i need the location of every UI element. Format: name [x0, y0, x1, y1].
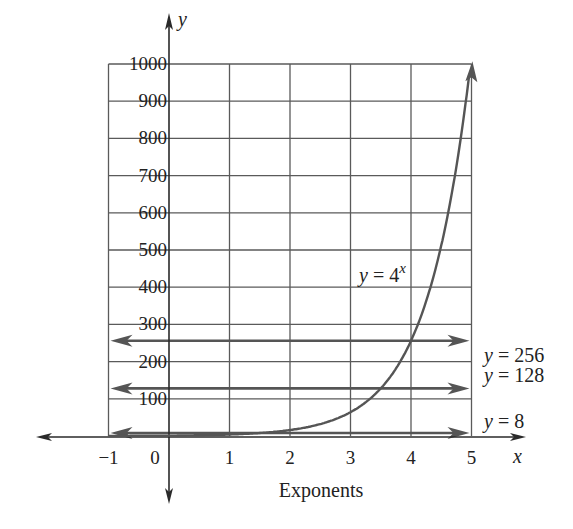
tick-labels: 1002003004005006007008009001000−1012345 [98, 53, 476, 468]
x-tick-label: 2 [285, 447, 295, 468]
y-tick-label: 600 [139, 202, 168, 223]
x-tick-label: 1 [225, 447, 235, 468]
y-tick-label: 400 [139, 276, 168, 297]
y-tick-label: 500 [139, 239, 168, 260]
y-tick-label: 200 [139, 351, 168, 372]
curve-label: y = 4x [357, 260, 406, 287]
x-tick-label: 4 [406, 447, 416, 468]
y-axis-symbol: y [176, 8, 187, 31]
y-tick-label: 700 [139, 165, 168, 186]
y-tick-label: 1000 [129, 53, 167, 74]
reference-line-label: y = 128 [482, 364, 544, 387]
y-tick-label: 100 [139, 388, 168, 409]
x-tick-label: 0 [150, 447, 160, 468]
y-tick-label: 900 [139, 90, 168, 111]
annotations: yxExponentsy = 4xy = 256y = 128y = 8 [176, 8, 544, 502]
x-axis-title: Exponents [279, 479, 364, 502]
y-tick-label: 800 [139, 127, 168, 148]
y-tick-label: 300 [139, 313, 168, 334]
x-tick-label: −1 [98, 447, 118, 468]
exponent-chart: 1002003004005006007008009001000−1012345 … [0, 0, 573, 529]
x-tick-label: 3 [346, 447, 356, 468]
x-axis-symbol: x [512, 445, 522, 467]
reference-line-label: y = 8 [482, 410, 524, 433]
x-tick-label: 5 [467, 447, 477, 468]
